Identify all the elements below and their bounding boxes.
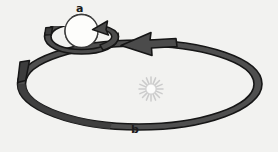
sun-ray	[156, 84, 162, 87]
sun-starburst	[139, 77, 163, 101]
diagram-svg	[0, 0, 278, 152]
sun-ray	[143, 81, 148, 86]
diagram-canvas: a b	[0, 0, 278, 152]
rotation-arrow-band	[42, 15, 119, 55]
sun-ray	[146, 94, 149, 100]
revolution-label-b: b	[131, 124, 139, 135]
sun-ray	[155, 81, 160, 86]
orbit-band-start-cut	[18, 61, 30, 83]
orbit-arrowhead	[121, 33, 177, 56]
sun-ray	[143, 93, 148, 98]
sun-ray	[140, 84, 146, 87]
sun-disc	[146, 84, 156, 94]
sun-ray	[140, 91, 146, 94]
sun-ray	[156, 91, 162, 94]
sun-ray	[153, 78, 156, 84]
planet-circle-overlay	[65, 15, 98, 48]
sun-ray	[153, 94, 156, 100]
sun-ray	[146, 78, 149, 84]
sun-ray	[155, 93, 160, 98]
rotation-band-start-cut	[45, 27, 53, 35]
rotation-label-a: a	[76, 3, 83, 14]
